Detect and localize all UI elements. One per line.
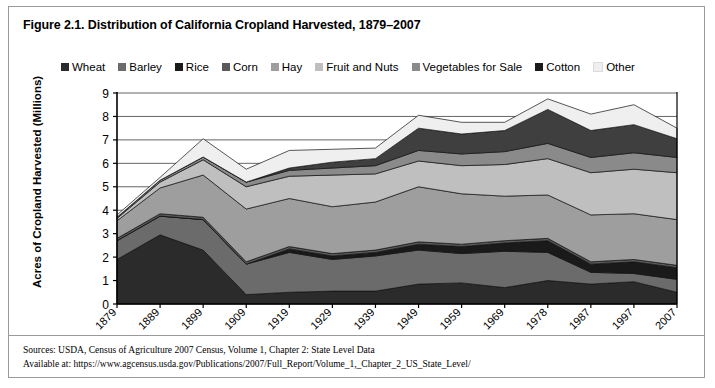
legend-item-rice: Rice [175,61,209,73]
legend-swatch-icon [593,62,603,72]
x-tick-label: 1987 [566,306,592,332]
legend-label: Rice [186,61,209,73]
x-tick-label: 1899 [179,306,205,332]
legend-swatch-icon [118,63,126,71]
legend-label: Other [606,61,635,73]
y-tick-label: 1 [102,274,109,288]
y-tick-label: 8 [102,110,109,124]
x-tick-label: 1949 [394,306,420,332]
legend-swatch-icon [535,63,543,71]
x-tick-label: 1939 [351,306,377,332]
legend-label: Wheat [72,61,105,73]
source-line-1: Sources: USDA, Census of Agriculture 200… [23,343,471,357]
x-axis-ticks: 1879188918991909191919291939194919591969… [93,304,679,332]
y-tick-label: 9 [102,87,109,101]
legend-swatch-icon [271,63,279,71]
legend-item-cotton: Cotton [535,61,580,73]
legend-label: Cotton [546,61,580,73]
y-tick-label: 4 [102,204,109,218]
x-tick-label: 1969 [480,306,506,332]
plot-area-wrapper: Acres of Cropland Harvested (Millions) 0… [9,77,704,339]
legend-item-corn: Corn [222,61,258,73]
y-axis-ticks: 0123456789 [102,87,117,312]
legend-item-hay: Hay [271,61,302,73]
legend-item-other: Other [593,61,635,73]
y-tick-label: 3 [102,227,109,241]
y-tick-label: 6 [102,157,109,171]
legend-label: Fruit and Nuts [326,61,398,73]
figure-title: Figure 2.1. Distribution of California C… [23,18,420,32]
legend-label: Hay [282,61,302,73]
legend-label: Barley [129,61,162,73]
legend-label: Corn [233,61,258,73]
x-tick-label: 1959 [437,306,463,332]
source-line-2: Available at: https://www.agcensus.usda.… [23,357,471,371]
figure-container: Figure 2.1. Distribution of California C… [8,6,705,378]
y-tick-label: 2 [102,251,109,265]
y-tick-label: 7 [102,133,109,147]
source-note: Sources: USDA, Census of Agriculture 200… [23,343,471,371]
legend-swatch-icon [222,63,230,71]
x-tick-label: 1997 [610,306,636,332]
legend-swatch-icon [315,63,323,71]
legend-item-barley: Barley [118,61,162,73]
legend-item-vegetables-for-sale: Vegetables for Sale [412,61,523,73]
legend-swatch-icon [412,63,420,71]
footer-divider [9,335,704,336]
chart-legend: WheatBarleyRiceCornHayFruit and NutsVege… [61,59,701,75]
legend-item-fruit-and-nuts: Fruit and Nuts [315,61,398,73]
x-tick-label: 2007 [653,306,679,332]
x-tick-label: 1889 [136,306,162,332]
x-tick-label: 1879 [93,306,119,332]
legend-swatch-icon [61,63,69,71]
x-tick-label: 1978 [523,306,549,332]
legend-label: Vegetables for Sale [423,61,523,73]
x-tick-label: 1929 [308,306,334,332]
x-tick-label: 1919 [265,306,291,332]
y-tick-label: 5 [102,180,109,194]
legend-swatch-icon [175,63,183,71]
x-tick-label: 1909 [222,306,248,332]
legend-item-wheat: Wheat [61,61,105,73]
stacked-area-chart: 0123456789187918891899190919191929193919… [9,77,704,339]
